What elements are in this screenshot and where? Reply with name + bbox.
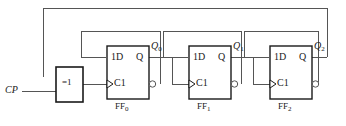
- ff0-q-output-label: Q: [136, 52, 143, 62]
- ff0-name-label: FF0: [115, 102, 129, 113]
- ff1-q-signal-label: Q1: [233, 41, 244, 53]
- ff2-q-output-label: Q: [299, 52, 306, 62]
- ff1-q-output-wire: [231, 57, 270, 84]
- ff0-clock-input-label: C1: [114, 78, 126, 88]
- clock-input-label: CP: [5, 85, 18, 95]
- circuit-schematic-svg: [0, 0, 346, 126]
- ff2-q-signal-label: Q2: [314, 41, 325, 53]
- ff1-clock-input-label: C1: [196, 78, 208, 88]
- ff1-name-label: FF1: [197, 102, 211, 113]
- ff0-q-output-wire: [149, 57, 189, 84]
- ff1-data-input-label: 1D: [193, 52, 205, 62]
- ff2-clock-input-label: C1: [277, 78, 289, 88]
- ff2-name-label: FF2: [278, 102, 292, 113]
- ff1-q-output-label: Q: [218, 52, 225, 62]
- circuit-diagram: CP =1 1D Q C1 Q0 FF0 1D Q C1 Q1 FF1 1D Q…: [0, 0, 346, 126]
- ff2-data-input-label: 1D: [274, 52, 286, 62]
- ff0-data-input-label: 1D: [111, 52, 123, 62]
- xor-gate-label: =1: [62, 78, 72, 87]
- ff0-q-signal-label: Q0: [151, 41, 162, 53]
